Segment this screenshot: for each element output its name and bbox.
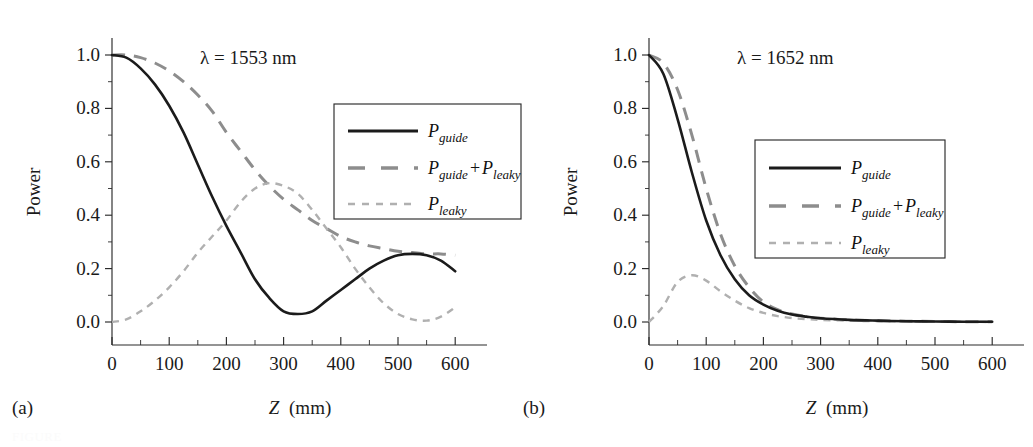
x-tick-label-b: 200 — [749, 353, 778, 374]
wavelength-annotation-b: λ = 1652 nm — [737, 47, 834, 68]
x-tick-label-b: 400 — [864, 353, 893, 374]
x-tick-label-a: 0 — [107, 353, 117, 374]
y-tick-label-b: 0.2 — [613, 258, 637, 279]
x-tick-label-b: 0 — [644, 353, 654, 374]
y-tick-label-b: 0.4 — [613, 204, 637, 225]
x-axis-tick-labels-a: 0100200300400500600 — [107, 353, 469, 374]
x-axis-title-unit-b: (mm) — [826, 397, 868, 419]
y-tick-label-a: 0.6 — [76, 151, 100, 172]
series-p-leaky-b — [649, 275, 992, 322]
x-tick-label-a: 300 — [269, 353, 298, 374]
x-axis-title-symbol-b: Z — [806, 397, 817, 418]
y-tick-label-a: 1.0 — [76, 44, 100, 65]
panel-a-plot: 0.00.20.40.60.81.0 0100200300400500600 P… — [0, 0, 516, 447]
y-tick-label-a: 0.4 — [76, 204, 100, 225]
x-tick-label-b: 600 — [978, 353, 1007, 374]
panel-tag-a: (a) — [12, 397, 33, 419]
x-tick-label-a: 600 — [441, 353, 470, 374]
y-axis-tick-labels-a: 0.00.20.40.60.81.0 — [76, 44, 100, 332]
x-tick-label-b: 300 — [806, 353, 835, 374]
y-tick-label-b: 0.0 — [613, 311, 637, 332]
y-tick-label-b: 0.8 — [613, 97, 637, 118]
x-axis-ticks-a — [112, 337, 455, 345]
y-tick-label-a: 0.8 — [76, 97, 100, 118]
x-tick-label-a: 500 — [384, 353, 413, 374]
legend-b: Pguide Pguide+Pleaky Pleaky — [755, 140, 945, 258]
x-axis-title-a: Z (mm) — [269, 397, 332, 419]
figure-container: 0.00.20.40.60.81.0 0100200300400500600 P… — [0, 0, 1033, 447]
x-axis-title-unit-a: (mm) — [289, 397, 331, 419]
x-tick-label-a: 200 — [212, 353, 241, 374]
x-axis-title-symbol-a: Z — [269, 397, 280, 418]
panel-b: 0.00.20.40.60.81.0 0100200300400500600 P… — [513, 0, 1029, 447]
legend-a: Pguide Pguide+Pleaky Pleaky — [334, 104, 521, 219]
x-axis-ticks-b — [649, 337, 992, 345]
y-axis-ticks-b — [642, 55, 649, 322]
x-axis-tick-labels-b: 0100200300400500600 — [644, 353, 1006, 374]
panel-tag-b: (b) — [523, 397, 545, 419]
panel-a: 0.00.20.40.60.81.0 0100200300400500600 P… — [0, 0, 516, 447]
y-tick-label-a: 0.2 — [76, 258, 100, 279]
legend-box-b — [755, 140, 945, 258]
panel-b-plot: 0.00.20.40.60.81.0 0100200300400500600 P… — [513, 0, 1029, 447]
y-tick-label-b: 0.6 — [613, 151, 637, 172]
caption-fragment: FIGURE — [12, 429, 62, 445]
wavelength-annotation-a: λ = 1553 nm — [200, 47, 297, 68]
y-tick-label-b: 1.0 — [613, 44, 637, 65]
x-tick-label-a: 100 — [155, 353, 184, 374]
x-tick-label-b: 100 — [692, 353, 721, 374]
y-tick-label-a: 0.0 — [76, 311, 100, 332]
x-tick-label-a: 400 — [327, 353, 356, 374]
y-axis-title-a: Power — [23, 167, 44, 216]
x-axis-title-b: Z (mm) — [806, 397, 869, 419]
x-tick-label-b: 500 — [921, 353, 950, 374]
y-axis-ticks-a — [105, 55, 112, 322]
y-axis-title-b: Power — [560, 167, 581, 216]
y-axis-tick-labels-b: 0.00.20.40.60.81.0 — [613, 44, 637, 332]
